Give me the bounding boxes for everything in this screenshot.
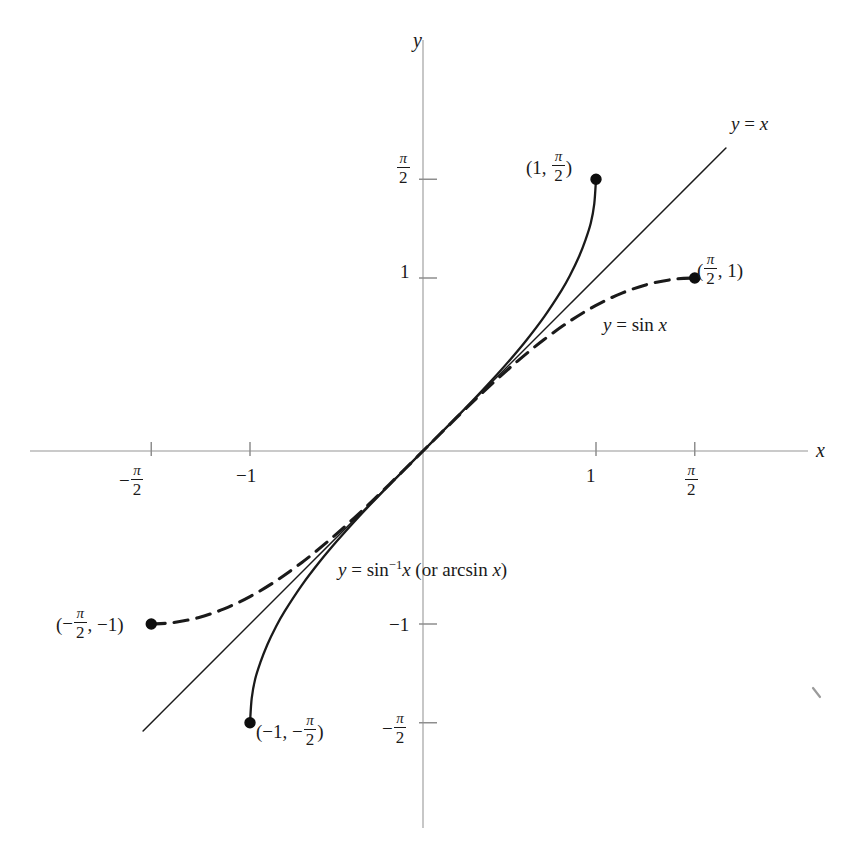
figure-canvas: y x −π2 −1 1 π2 π2 1 −1 −π2 y = x y = si…	[0, 0, 863, 866]
print-artifact-mark	[813, 688, 820, 697]
x-tick-label-neg-1: −1	[236, 466, 256, 485]
endpoint-dot	[146, 619, 156, 629]
x-axis-label: x	[816, 440, 825, 460]
x-tick-label-pi-over-2: π2	[684, 464, 699, 500]
point-label-neg-pi-over-2-neg-1: (−π2, −1)	[56, 607, 124, 643]
curve-label-y-equals-x: y = x	[731, 114, 768, 133]
point-label-neg-1-neg-pi-over-2: (−1, −π2)	[256, 714, 324, 750]
y-tick-label-pi-over-2: π2	[396, 152, 411, 188]
x-tick-label-1: 1	[586, 466, 596, 485]
x-tick-label-neg-pi-over-2: −π2	[119, 464, 144, 500]
curve-group	[143, 148, 726, 731]
point-label-1-pi-over-2: (1, π2)	[526, 150, 572, 186]
endpoint-dot	[245, 718, 255, 728]
axis-group	[30, 40, 808, 828]
endpoint-dot	[591, 174, 601, 184]
point-label-pi-over-2-1: (π2, 1)	[697, 253, 743, 289]
y-tick-label-neg-pi-over-2: −π2	[382, 712, 407, 748]
y-tick-label-neg-1: −1	[389, 615, 409, 634]
y-tick-label-1: 1	[400, 262, 410, 281]
curve-label-y-equals-arcsin-x: y = sin−1x (or arcsin x)	[338, 560, 507, 579]
curve-y-x	[143, 148, 726, 731]
curve-label-y-equals-sin-x: y = sin x	[603, 315, 667, 334]
y-axis-label: y	[413, 30, 422, 50]
